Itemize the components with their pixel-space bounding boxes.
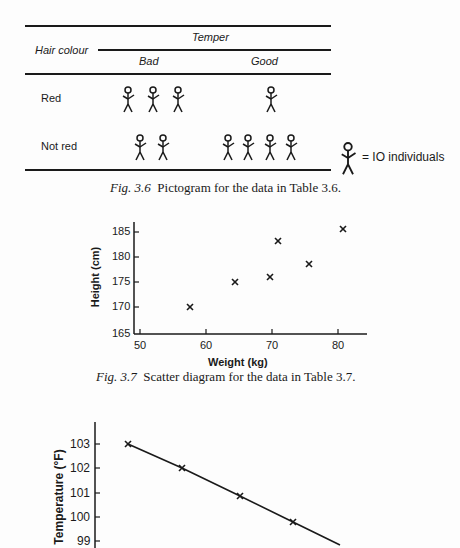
y-tick-label: 103 [70, 437, 90, 451]
y-axis-label: Temperature (°F) [52, 449, 66, 544]
y-tick-label: 100 [70, 510, 90, 524]
y-tick-label: 102 [70, 461, 90, 475]
data-point-marker [290, 519, 296, 525]
y-tick-label: 101 [70, 486, 90, 500]
data-point-marker [125, 441, 131, 447]
data-point-marker [237, 493, 243, 499]
temperature-line [128, 444, 340, 545]
data-point-marker [179, 465, 185, 471]
y-tick-label: 99 [77, 534, 90, 548]
